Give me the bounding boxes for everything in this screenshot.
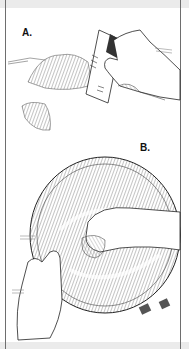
hand-b-left (17, 251, 62, 340)
residue-pile (28, 54, 92, 89)
illustration (0, 0, 189, 349)
panel-label-b: B. (140, 143, 150, 153)
hand-a (105, 30, 180, 100)
panel-b-art (12, 157, 180, 340)
panel-label-a: A. (22, 28, 32, 38)
residue-clump (22, 102, 50, 130)
panel-a-art (8, 30, 180, 130)
